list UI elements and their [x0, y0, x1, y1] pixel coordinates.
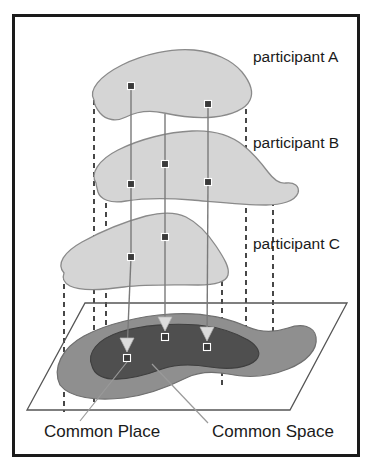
marker-a-2: [205, 101, 212, 108]
common-space-diagram: participant A participant B participant …: [0, 0, 372, 467]
common-space-caption: Common Space: [212, 422, 334, 441]
participant-b-label: participant B: [253, 134, 339, 151]
marker-b-1: [162, 161, 169, 168]
figure-container: participant A participant B participant …: [0, 0, 372, 467]
participant-c-label: participant C: [253, 235, 340, 252]
common-place-caption: Common Place: [44, 422, 160, 441]
marker-c-1: [162, 234, 169, 241]
marker-place-3: [204, 344, 211, 351]
marker-b-2: [128, 181, 135, 188]
marker-c-2: [128, 254, 135, 261]
marker-b-3: [205, 179, 212, 186]
marker-place-1: [124, 355, 131, 362]
connector-b-to-place-right: [207, 182, 208, 341]
participant-a-label: participant A: [253, 48, 339, 65]
marker-place-2: [162, 334, 169, 341]
marker-a-1: [128, 83, 135, 90]
